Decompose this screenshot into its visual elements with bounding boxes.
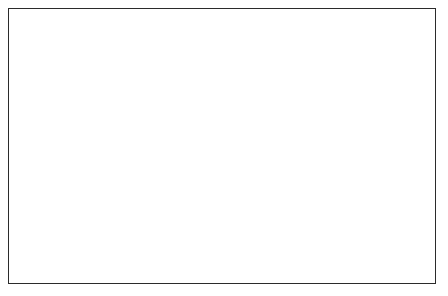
- figure-container: 0501001921194119611983old64442414young4P…: [0, 0, 448, 296]
- figure-border: [8, 8, 436, 284]
